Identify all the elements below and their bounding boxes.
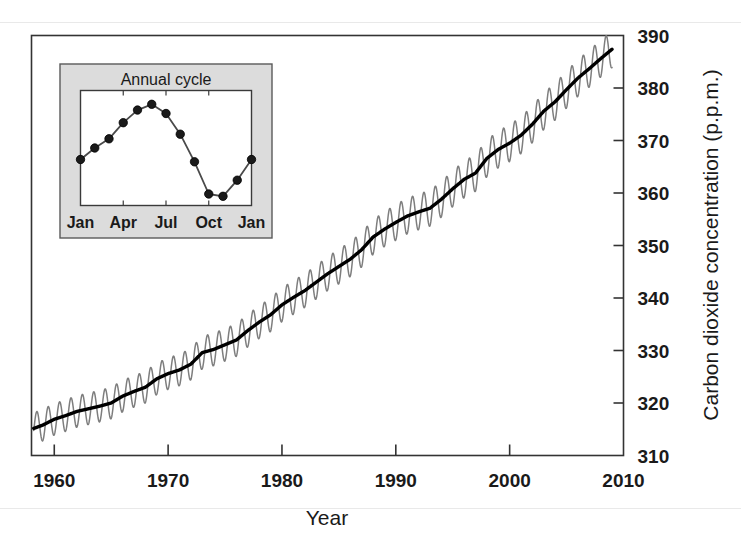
x-tick-label: 2010 bbox=[602, 470, 644, 491]
inset-title: Annual cycle bbox=[121, 71, 212, 88]
x-axis-ticks: 196019701980199020002010 bbox=[33, 445, 645, 491]
scan-artifact-bottom bbox=[0, 508, 741, 509]
y-tick-label: 360 bbox=[638, 183, 670, 204]
x-tick-label: 1970 bbox=[147, 470, 189, 491]
inset-data-point bbox=[91, 144, 99, 152]
inset-data-point bbox=[162, 109, 170, 117]
x-tick-label: 1960 bbox=[33, 470, 75, 491]
y-tick-label: 320 bbox=[638, 393, 670, 414]
y-tick-label: 330 bbox=[638, 341, 670, 362]
inset-x-tick-label: Apr bbox=[109, 214, 137, 231]
inset-x-tick-label: Jul bbox=[154, 214, 177, 231]
inset-plot-frame bbox=[81, 91, 252, 206]
inset-data-point bbox=[205, 190, 213, 198]
annual-cycle-inset: Annual cycle JanAprJulOctJan bbox=[60, 64, 272, 238]
scan-artifact-top bbox=[0, 22, 741, 23]
y-tick-label: 340 bbox=[638, 288, 670, 309]
inset-data-point bbox=[247, 155, 255, 163]
inset-x-tick-label: Oct bbox=[195, 214, 222, 231]
inset-data-point bbox=[233, 176, 241, 184]
y-tick-label: 310 bbox=[638, 446, 670, 467]
inset-data-point bbox=[133, 106, 141, 114]
inset-x-tick-label: Jan bbox=[238, 214, 266, 231]
x-tick-label: 2000 bbox=[489, 470, 531, 491]
co2-keeling-curve-figure: 310320330340350360370380390 196019701980… bbox=[0, 0, 741, 555]
y-axis-title: Carbon dioxide concentration (p.p.m.) bbox=[699, 69, 722, 420]
inset-data-point bbox=[219, 192, 227, 200]
y-tick-label: 350 bbox=[638, 236, 670, 257]
inset-data-point bbox=[119, 119, 127, 127]
y-axis-ticks: 310320330340350360370380390 bbox=[614, 26, 670, 467]
inset-data-point bbox=[148, 100, 156, 108]
x-axis-title: Year bbox=[306, 506, 348, 529]
x-tick-label: 1990 bbox=[375, 470, 417, 491]
x-tick-label: 1980 bbox=[261, 470, 303, 491]
y-tick-label: 380 bbox=[638, 78, 670, 99]
inset-data-point bbox=[190, 158, 198, 166]
inset-data-point bbox=[76, 155, 84, 163]
inset-data-point bbox=[105, 135, 113, 143]
y-tick-label: 390 bbox=[638, 26, 670, 47]
y-tick-label: 370 bbox=[638, 131, 670, 152]
chart-canvas: 310320330340350360370380390 196019701980… bbox=[0, 0, 741, 555]
inset-x-tick-label: Jan bbox=[67, 214, 95, 231]
inset-data-point bbox=[176, 130, 184, 138]
